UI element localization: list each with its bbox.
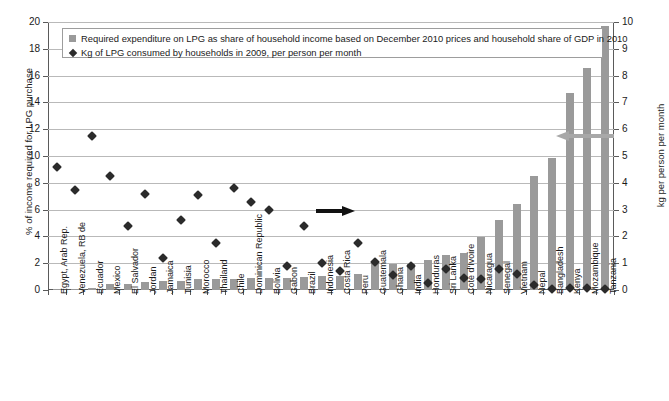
- x-axis-label: Kenya: [573, 268, 582, 294]
- x-axis-label: Guatemala: [379, 250, 388, 294]
- y-tick-right: [614, 49, 619, 50]
- y-tick-left: [43, 49, 48, 50]
- y-tick-left: [43, 210, 48, 211]
- gridline: [48, 236, 614, 237]
- chart-container: % of income required for LPG purchase kg…: [0, 0, 669, 401]
- data-point: [229, 183, 239, 193]
- x-axis-label: Bangladesh: [556, 246, 565, 294]
- gridline: [48, 129, 614, 130]
- x-axis-label: Dominican Republic: [255, 214, 264, 294]
- gridline: [48, 76, 614, 77]
- y-tick-right: [614, 76, 619, 77]
- x-axis-label: Vietnam: [520, 261, 529, 294]
- y-tick-left: [43, 76, 48, 77]
- y-tick-label-right: 10: [622, 17, 633, 27]
- x-axis-label: Jordan: [149, 266, 158, 294]
- x-axis-label: Sri Lanka: [449, 256, 458, 294]
- data-point: [70, 185, 80, 195]
- y-tick-left: [43, 183, 48, 184]
- legend-item-bar: Required expenditure on LPG as share of …: [69, 32, 596, 45]
- x-axis-label: Cote d'Ivoire: [467, 244, 476, 294]
- chart-legend: Required expenditure on LPG as share of …: [62, 28, 603, 58]
- y-tick-right: [614, 129, 619, 130]
- data-point: [300, 221, 310, 231]
- y-tick-label-right: 9: [622, 44, 628, 54]
- y-tick-label-left: 20: [29, 17, 40, 27]
- y-tick-label-right: 1: [622, 258, 628, 268]
- y-tick-right: [614, 22, 619, 23]
- y-tick-right: [614, 102, 619, 103]
- y-tick-label-left: 10: [29, 151, 40, 161]
- x-axis-label: Bolivia: [273, 267, 282, 294]
- data-point: [211, 238, 221, 248]
- y-tick-left: [43, 263, 48, 264]
- x-axis-label: Chile: [237, 273, 246, 294]
- gridline: [48, 183, 614, 184]
- x-axis-label: Venezuela, RB de: [78, 222, 87, 294]
- y-tick-right: [614, 156, 619, 157]
- x-axis-label: Mexico: [113, 265, 122, 294]
- x-axis-label: Honduras: [432, 255, 441, 294]
- x-axis-label: Brazil: [308, 271, 317, 294]
- x-axis-label: India: [414, 274, 423, 294]
- legend-item-scatter: Kg of LPG consumed by households in 2009…: [69, 46, 596, 59]
- x-tick: [48, 290, 49, 295]
- data-point: [52, 162, 62, 172]
- gridline: [48, 102, 614, 103]
- y-tick-left: [43, 22, 48, 23]
- data-point: [123, 221, 133, 231]
- y-tick-label-left: 6: [34, 205, 40, 215]
- x-axis-label: Egypt, Arab Rep.: [60, 226, 69, 294]
- x-axis-label: Gabon: [290, 267, 299, 294]
- y-tick-label-right: 5: [622, 151, 628, 161]
- y-tick-label-left: 2: [34, 258, 40, 268]
- legend-square-icon: [69, 35, 76, 42]
- data-point: [353, 238, 363, 248]
- x-axis-label: Mozambique: [591, 242, 600, 294]
- y-axis-right-title: kg per person per month: [655, 71, 666, 241]
- y-tick-right: [614, 236, 619, 237]
- y-tick-left: [43, 236, 48, 237]
- y-tick-label-right: 6: [622, 124, 628, 134]
- x-axis-label: Tanzania: [609, 258, 618, 294]
- y-tick-label-right: 4: [622, 178, 628, 188]
- y-tick-label-left: 12: [29, 124, 40, 134]
- legend-label-scatter: Kg of LPG consumed by households in 2009…: [81, 47, 361, 58]
- x-axis-label: El Salvador: [131, 248, 140, 294]
- data-point: [87, 131, 97, 141]
- x-axis-label: Senegal: [503, 261, 512, 294]
- y-tick-label-left: 16: [29, 71, 40, 81]
- x-axis-label: Peru: [361, 275, 370, 294]
- legend-diamond-icon: [69, 48, 77, 56]
- y-tick-right: [614, 210, 619, 211]
- data-point: [246, 197, 256, 207]
- y-tick-left: [43, 102, 48, 103]
- x-axis-label: Jamaica: [166, 260, 175, 294]
- x-axis-label: Ecuador: [96, 260, 105, 294]
- y-tick-label-right: 8: [622, 71, 628, 81]
- y-tick-label-left: 4: [34, 231, 40, 241]
- data-point: [193, 190, 203, 200]
- y-tick-label-right: 7: [622, 97, 628, 107]
- y-tick-label-right: 0: [622, 285, 628, 295]
- y-tick-label-right: 3: [622, 205, 628, 215]
- gridline: [48, 156, 614, 157]
- y-tick-label-left: 14: [29, 97, 40, 107]
- x-axis-label: Ghana: [396, 267, 405, 294]
- right-arrow-icon: [316, 207, 356, 214]
- left-arrow-icon: [556, 132, 614, 139]
- x-axis-label: Nicaragua: [485, 253, 494, 294]
- bar: [601, 26, 609, 290]
- legend-label-bar: Required expenditure on LPG as share of …: [81, 33, 628, 44]
- data-point: [140, 189, 150, 199]
- y-tick-label-left: 0: [34, 285, 40, 295]
- y-tick-right: [614, 183, 619, 184]
- x-axis-label: Morocco: [202, 259, 211, 294]
- data-point: [105, 171, 115, 181]
- bar: [566, 93, 574, 290]
- y-tick-label-left: 18: [29, 44, 40, 54]
- y-tick-left: [43, 129, 48, 130]
- y-tick-label-right: 2: [622, 231, 628, 241]
- data-point: [264, 205, 274, 215]
- x-axis-label: Nepal: [538, 270, 547, 294]
